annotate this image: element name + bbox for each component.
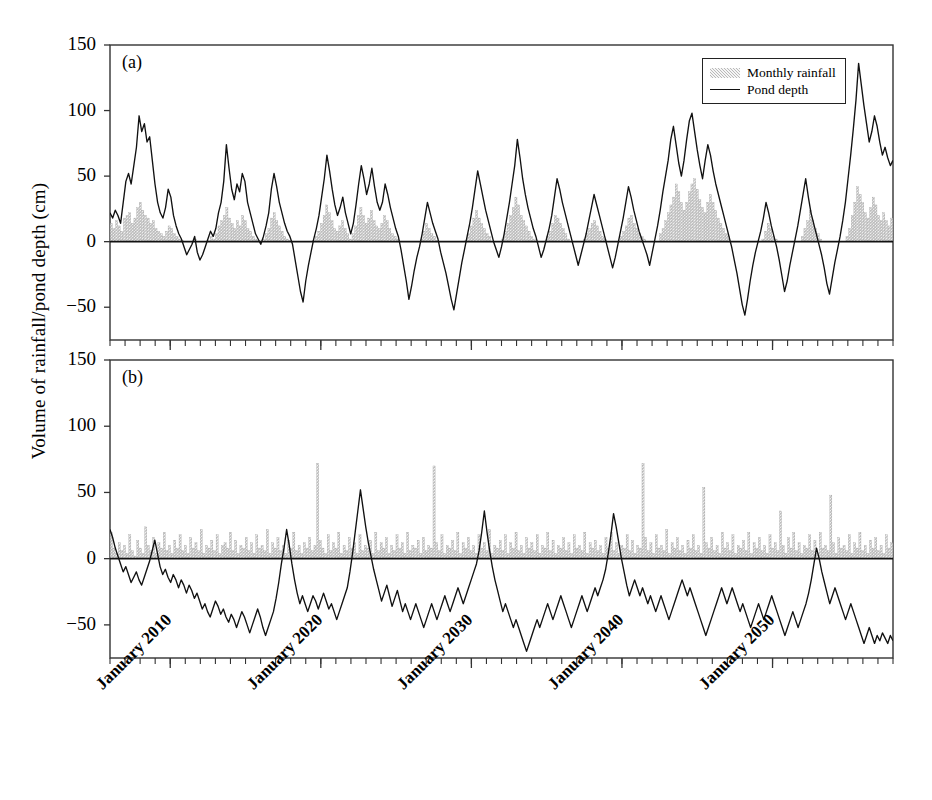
y-tick-label-panel-a: 50 bbox=[36, 164, 96, 186]
y-tick-label-panel-a: 100 bbox=[36, 99, 96, 121]
y-tick-label-panel-b: −50 bbox=[36, 613, 96, 635]
figure-container: Volume of rainfall/pond depth (cm) (a) (… bbox=[0, 0, 932, 800]
panel-b-label: (b) bbox=[122, 367, 143, 388]
legend-label-rainfall: Monthly rainfall bbox=[747, 64, 836, 81]
y-tick-label-panel-a: −50 bbox=[36, 295, 96, 317]
y-tick-label-panel-a: 150 bbox=[36, 33, 96, 55]
legend: Monthly rainfall Pond depth bbox=[702, 58, 846, 104]
y-tick-label-panel-b: 150 bbox=[36, 348, 96, 370]
legend-item-pond-depth: Pond depth bbox=[710, 81, 836, 98]
legend-label-pond-depth: Pond depth bbox=[747, 81, 808, 98]
y-tick-label-panel-a: 0 bbox=[36, 230, 96, 252]
rainfall-swatch-icon bbox=[710, 68, 740, 78]
rainfall-bars bbox=[110, 463, 892, 558]
y-tick-label-panel-b: 50 bbox=[36, 480, 96, 502]
chart-canvas bbox=[0, 0, 932, 800]
y-tick-label-panel-b: 100 bbox=[36, 414, 96, 436]
legend-item-rainfall: Monthly rainfall bbox=[710, 64, 836, 81]
line-swatch-icon bbox=[710, 89, 740, 90]
panel-a-label: (a) bbox=[122, 52, 142, 73]
y-tick-label-panel-b: 0 bbox=[36, 547, 96, 569]
rainfall-bars bbox=[110, 179, 892, 242]
